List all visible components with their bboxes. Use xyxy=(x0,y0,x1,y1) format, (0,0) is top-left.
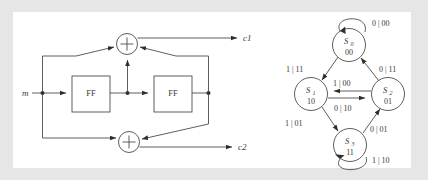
figure-root: m FF FF xyxy=(0,0,428,180)
state-s0-bits: 00 xyxy=(345,48,353,57)
wire-rightjunc-to-adder-top xyxy=(140,47,176,56)
flipflop-2-label: FF xyxy=(168,88,178,98)
state-s1-bits: 10 xyxy=(307,97,315,106)
output-label-c2: c2 xyxy=(238,142,247,152)
flipflop-1-label: FF xyxy=(86,88,96,98)
transition-s0-s1-path xyxy=(322,57,338,80)
input-label-m: m xyxy=(22,88,29,98)
wire-inputjunc-to-adder-top xyxy=(76,47,114,56)
circuit-diagram: m FF FF xyxy=(22,33,252,153)
figure-canvas: m FF FF xyxy=(0,0,428,180)
transition-label-s2-s0: 0 | 11 xyxy=(379,65,396,74)
transition-label-s1-s3: 1 | 01 xyxy=(285,119,303,128)
transition-label-s1-s2: 0 | 10 xyxy=(334,104,352,113)
transition-label-s0-s0: 0 | 00 xyxy=(372,19,390,28)
transition-s2-s0-path xyxy=(361,58,379,81)
state-s1-index: 1 xyxy=(313,90,316,96)
state-s0-index: 0 xyxy=(351,41,354,47)
output-label-c1: c1 xyxy=(243,33,252,43)
state-transition-diagram: S 0 00 S 1 10 S 2 01 S 3 11 0 | 00 1 | 1 xyxy=(285,19,405,170)
state-s3-index: 3 xyxy=(351,141,355,147)
transition-label-s2-s1: 1 | 00 xyxy=(333,79,351,88)
state-s2-index: 2 xyxy=(390,90,393,96)
wire-rightjunc-to-adder-bottom xyxy=(142,124,209,139)
state-s2-bits: 01 xyxy=(384,97,392,106)
transition-label-s0-s1: 1 | 11 xyxy=(286,65,303,74)
state-s3-bits: 11 xyxy=(346,148,354,157)
transition-label-s3-s2: 0 | 01 xyxy=(370,125,388,134)
transition-label-s3-s3: 1 | 10 xyxy=(372,156,390,165)
